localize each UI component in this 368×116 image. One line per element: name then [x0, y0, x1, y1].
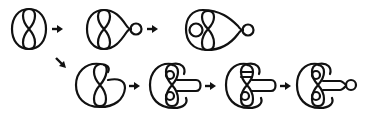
figure-4-c-figure-eight	[76, 64, 125, 107]
figure-1-oval-figure-eight	[12, 9, 46, 49]
arrow-down-right	[56, 58, 66, 68]
figure-7-c-lobes-tongue-loop	[297, 64, 356, 108]
knot-sequence-diagram	[0, 0, 368, 116]
arrow-right-3	[129, 82, 140, 90]
figure-2-oval-figure-eight-loop	[87, 10, 142, 49]
figure-3-oval-three-lobes-loop	[186, 10, 254, 50]
arrow-right-1	[52, 25, 63, 33]
arrow-right-2	[147, 25, 158, 33]
figure-5-c-lobes-tongue	[150, 64, 201, 108]
figure-6-c-twisted-lobes-tongue	[226, 64, 276, 108]
arrow-right-4	[205, 82, 216, 90]
arrow-right-5	[280, 82, 291, 90]
